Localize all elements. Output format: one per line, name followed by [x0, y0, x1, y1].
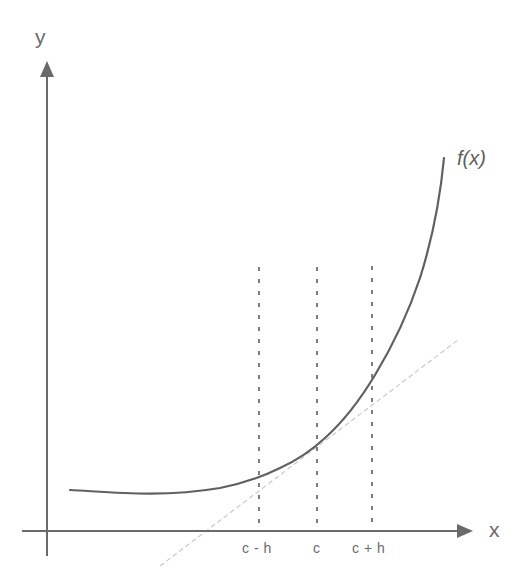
x-axis-arrow-icon	[457, 524, 473, 538]
function-curve	[70, 158, 444, 494]
y-axis-label: y	[35, 26, 46, 47]
tick-label-c-plus-h: c + h	[352, 541, 385, 555]
tick-label-c: c	[313, 541, 321, 555]
tick-label-c-minus-h: c - h	[242, 541, 272, 555]
derivative-diagram	[0, 0, 523, 583]
secant-line	[160, 340, 458, 566]
function-label: f(x)	[457, 148, 486, 168]
x-axis-label: x	[489, 519, 500, 540]
y-axis-arrow-icon	[40, 61, 54, 77]
